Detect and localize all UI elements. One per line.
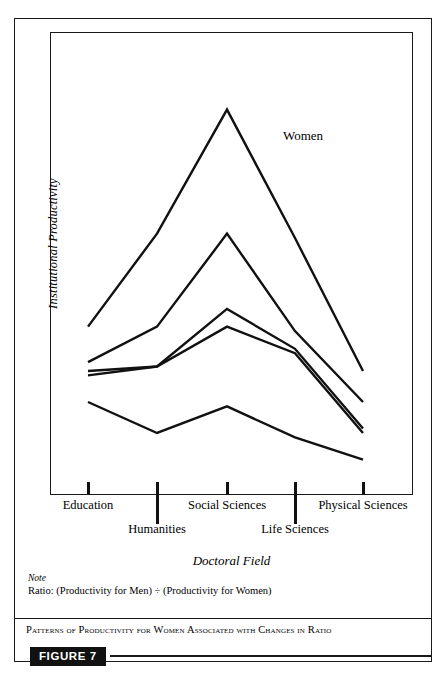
note-title: Note (28, 572, 408, 584)
x-axis-title: Doctoral Field (50, 553, 413, 569)
figure-number-badge: FIGURE 7 (30, 647, 106, 666)
note-text: Ratio: (Productivity for Men) ÷ (Product… (28, 584, 408, 597)
series-layer (88, 110, 363, 460)
x-tick-humanities (156, 482, 159, 524)
x-tick-education (87, 482, 90, 495)
caption-divider (14, 618, 432, 619)
x-tick-physical-sciences (362, 482, 365, 495)
badge-rule (110, 655, 432, 657)
figure-root: Institutional Productivity Women Educati… (0, 0, 445, 680)
x-label-life-sciences: Life Sciences (261, 522, 329, 537)
annotation-women: Women (283, 128, 323, 144)
note-block: Note Ratio: (Productivity for Men) ÷ (Pr… (28, 572, 408, 597)
x-label-education: Education (63, 498, 114, 513)
series-line-5 (88, 402, 363, 460)
x-label-humanities: Humanities (128, 522, 186, 537)
x-tick-life-sciences (294, 482, 297, 524)
x-tick-social-sciences (226, 482, 229, 495)
series-line-2 (88, 234, 363, 402)
x-label-social-sciences: Social Sciences (188, 498, 266, 513)
figure-caption: Patterns of Productivity for Women Assoc… (26, 624, 426, 635)
x-label-physical-sciences: Physical Sciences (318, 498, 407, 513)
series-line-1 (88, 110, 363, 371)
line-chart-svg (50, 32, 413, 495)
y-axis-title: Institutional Productivity (46, 144, 61, 344)
